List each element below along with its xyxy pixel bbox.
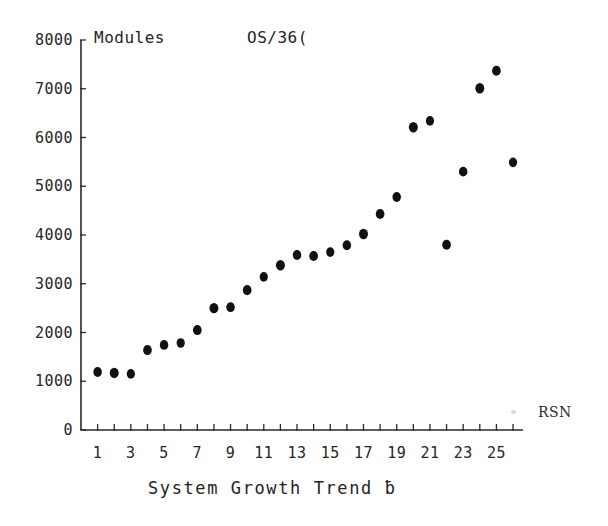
data-point xyxy=(143,345,152,355)
data-point xyxy=(309,251,318,261)
x-tick-label: 25 xyxy=(481,444,511,462)
x-tick-label: 23 xyxy=(448,444,478,462)
y-tick-label: 8000 xyxy=(15,31,73,49)
y-tick-label: 4000 xyxy=(15,226,73,244)
data-point xyxy=(110,368,119,378)
data-point xyxy=(475,83,484,93)
y-tick-label: 7000 xyxy=(15,80,73,98)
data-point xyxy=(326,247,334,257)
chart-title-modules: Modules xyxy=(94,28,165,47)
y-tick-label: 0 xyxy=(15,421,73,439)
x-tick-label: 7 xyxy=(182,444,212,462)
data-point xyxy=(376,209,385,219)
data-point xyxy=(209,303,218,313)
scatter-chart-figure: Modules OS/36( 0100020003000400050006000… xyxy=(0,0,608,526)
x-tick-label: 15 xyxy=(315,444,345,462)
data-point xyxy=(226,302,234,312)
data-point xyxy=(359,229,368,239)
y-tick-label: 3000 xyxy=(15,275,73,293)
x-tick-label: 1 xyxy=(83,444,113,462)
data-point xyxy=(459,167,467,177)
x-tick-label: 19 xyxy=(382,444,412,462)
x-axis-caption: System Growth Trend ƀ xyxy=(148,478,397,498)
data-point xyxy=(492,66,501,76)
x-tick-label: 5 xyxy=(149,444,179,462)
data-point xyxy=(127,369,135,379)
data-point xyxy=(293,250,301,260)
data-point xyxy=(160,340,168,350)
data-point xyxy=(343,240,351,250)
y-tick-label: 6000 xyxy=(15,129,73,147)
data-point-group xyxy=(93,66,517,379)
data-point xyxy=(426,116,434,126)
data-point xyxy=(409,122,418,132)
rsn-axis-label: RSN xyxy=(538,404,572,420)
data-point xyxy=(193,325,202,335)
data-point xyxy=(276,260,285,270)
data-point xyxy=(509,158,517,168)
page-speck xyxy=(511,410,516,414)
x-tick-label: 9 xyxy=(216,444,246,462)
x-tick-label: 17 xyxy=(348,444,378,462)
y-tick-label: 2000 xyxy=(15,324,73,342)
x-tick-label: 21 xyxy=(415,444,445,462)
y-tick-label: 1000 xyxy=(15,372,73,390)
data-point xyxy=(177,338,185,348)
x-tick-label: 13 xyxy=(282,444,312,462)
data-point xyxy=(392,192,400,202)
x-tick-label: 3 xyxy=(116,444,146,462)
data-point xyxy=(93,367,101,377)
x-tick-label: 11 xyxy=(249,444,279,462)
axis-lines xyxy=(81,40,523,430)
y-tick-label: 5000 xyxy=(15,177,73,195)
data-point xyxy=(260,272,268,282)
data-point xyxy=(243,285,252,295)
chart-title-system: OS/36( xyxy=(247,28,308,47)
data-point xyxy=(442,240,451,250)
